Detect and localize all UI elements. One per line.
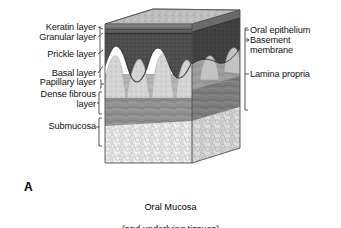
figure-caption: Oral Mucosa (and underlying tissues) xyxy=(0,191,341,228)
caption-title: Oral Mucosa xyxy=(0,202,341,213)
label-oral-epithelium: Oral epithelium xyxy=(250,25,310,35)
layer-keratin-granular-front xyxy=(105,24,192,33)
block-front-face xyxy=(86,24,193,163)
label-papillary-layer: Papillary layer xyxy=(40,77,96,87)
label-keratin-layer: Keratin layer xyxy=(46,22,96,32)
label-submucosa: Submucosa xyxy=(48,121,96,131)
right-leader-lines xyxy=(245,28,249,110)
tissue-block-3d xyxy=(86,9,240,163)
caption-subtitle: (and underlying tissues) xyxy=(0,224,341,228)
block-right-face xyxy=(192,10,240,163)
label-basement-membrane: Basement membrane xyxy=(250,35,293,55)
label-prickle-layer: Prickle layer xyxy=(47,49,96,59)
label-granular-layer: Granular layer xyxy=(39,32,96,42)
label-lamina-propria: Lamina propria xyxy=(250,69,310,79)
label-dense-fibrous-layer: Dense fibrous layer xyxy=(41,89,96,109)
left-leader-lines xyxy=(96,26,104,146)
